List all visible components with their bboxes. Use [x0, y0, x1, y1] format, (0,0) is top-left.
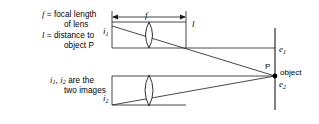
f-arrow-head-left: [112, 15, 118, 20]
f-arrow-head-right: [180, 15, 186, 20]
label-e2-subscript: 2: [283, 83, 286, 90]
label-e1: e1: [279, 44, 286, 55]
object-point-dot: [273, 74, 278, 79]
f-dimension-arrow: [112, 15, 186, 20]
ray-lower-to-P: [112, 76, 275, 105]
lower-lens: [145, 75, 153, 106]
label-l: l: [192, 19, 195, 29]
label-i1: i1: [103, 26, 109, 37]
optics-diagram-svg: [0, 0, 319, 124]
label-f: f: [145, 10, 148, 20]
label-object: object: [280, 68, 301, 77]
label-i2: i2: [103, 93, 109, 104]
label-e1-subscript: 1: [283, 48, 286, 55]
upper-lens: [146, 22, 153, 48]
label-e2: e2: [279, 79, 286, 90]
label-i2-subscript: 2: [106, 97, 109, 104]
label-P: P: [265, 62, 270, 71]
lens-diagram-figure: f = focal length of lens l = distance to…: [0, 0, 319, 124]
ray-upper-to-P: [112, 26, 275, 76]
label-i1-subscript: 1: [106, 30, 109, 37]
